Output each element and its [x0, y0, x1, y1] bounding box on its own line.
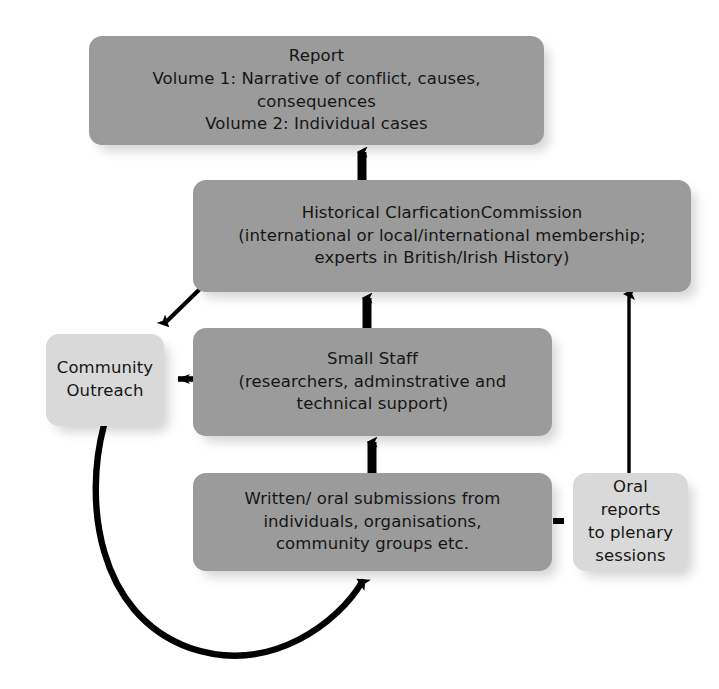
node-written-oral-submissions: Written/ oral submissions from individua… — [193, 473, 552, 571]
node-historical-clarification-commission: Historical ClarficationCommission (inter… — [193, 180, 691, 292]
node-plenary-label: Oral reports to plenary sessions — [583, 476, 678, 567]
node-commission-label: Historical ClarficationCommission (inter… — [238, 202, 645, 270]
node-report-label: Report Volume 1: Narrative of conflict, … — [99, 45, 534, 136]
node-staff-label: Small Staff (researchers, adminstrative … — [239, 348, 507, 416]
node-community-outreach: Community Outreach — [46, 334, 164, 426]
node-submissions-label: Written/ oral submissions from individua… — [245, 488, 501, 556]
node-outreach-label: Community Outreach — [57, 357, 153, 403]
node-report: Report Volume 1: Narrative of conflict, … — [89, 36, 544, 145]
node-oral-reports-to-plenary-sessions: Oral reports to plenary sessions — [573, 473, 688, 571]
node-small-staff: Small Staff (researchers, adminstrative … — [193, 328, 552, 436]
diagram-canvas: Report Volume 1: Narrative of conflict, … — [0, 0, 719, 689]
